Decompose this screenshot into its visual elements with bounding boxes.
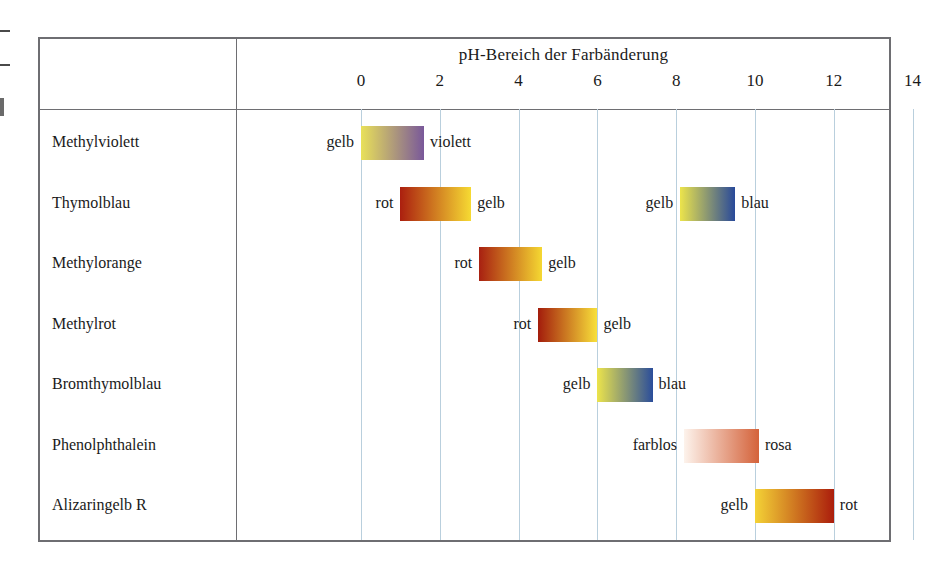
chart-title: pH-Bereich der Farbänderung [238, 45, 889, 65]
color-band-thymolblau-1 [680, 187, 735, 221]
row-label-thymolblau: Thymolblau [52, 194, 130, 212]
axis-tick-2: 2 [436, 71, 445, 91]
color-band-phenolphthalein-0 [684, 429, 759, 463]
gridline-ph-2 [440, 109, 441, 540]
band-label-left: rot [514, 315, 532, 333]
column-divider [236, 39, 237, 540]
axis-tick-6: 6 [593, 71, 602, 91]
edge-mark [0, 30, 10, 32]
edge-mark [0, 64, 10, 66]
band-label-left: gelb [720, 496, 748, 514]
ph-chart-area: pH-Bereich der Farbänderung 02468101214 … [238, 39, 889, 540]
band-label-right: rot [840, 496, 858, 514]
indicator-table: MethylviolettThymolblauMethylorangeMethy… [38, 37, 891, 542]
gridline-ph-14 [913, 109, 914, 540]
axis-tick-0: 0 [357, 71, 366, 91]
row-label-bromthymolblau: Bromthymolblau [52, 375, 161, 393]
band-label-right: rosa [765, 436, 792, 454]
row-label-phenolphthalein: Phenolphthalein [52, 436, 156, 454]
gridline-ph-8 [676, 109, 677, 540]
band-label-right: blau [741, 194, 769, 212]
row-label-alizaringelb-r: Alizaringelb R [52, 496, 147, 514]
band-label-left: gelb [563, 375, 591, 393]
edge-mark [0, 98, 4, 116]
axis-tick-14: 14 [904, 71, 921, 91]
axis-tick-12: 12 [825, 71, 842, 91]
color-band-thymolblau-0 [400, 187, 471, 221]
axis-tick-10: 10 [747, 71, 764, 91]
color-band-methylviolett-0 [361, 126, 424, 160]
row-label-methylrot: Methylrot [52, 315, 116, 333]
band-label-left: gelb [326, 133, 354, 151]
band-label-left: farblos [633, 436, 677, 454]
band-label-left: rot [454, 254, 472, 272]
color-band-alizaringelb-r-0 [755, 489, 834, 523]
row-label-methylorange: Methylorange [52, 254, 142, 272]
axis-tick-8: 8 [672, 71, 681, 91]
color-band-methylrot-0 [538, 308, 597, 342]
gridline-ph-12 [834, 109, 835, 540]
gridline-ph-0 [361, 109, 362, 540]
page-edge-marks [0, 30, 16, 148]
color-band-methylorange-0 [479, 247, 542, 281]
gridline-ph-10 [755, 109, 756, 540]
band-label-right: violett [430, 133, 471, 151]
row-label-methylviolett: Methylviolett [52, 133, 139, 151]
color-band-bromthymolblau-0 [597, 368, 652, 402]
band-label-right: gelb [477, 194, 505, 212]
band-label-left: gelb [646, 194, 674, 212]
axis-tick-4: 4 [514, 71, 523, 91]
gridline-ph-6 [597, 109, 598, 540]
band-label-right: gelb [548, 254, 576, 272]
band-label-right: gelb [603, 315, 631, 333]
band-label-right: blau [659, 375, 687, 393]
band-label-left: rot [376, 194, 394, 212]
